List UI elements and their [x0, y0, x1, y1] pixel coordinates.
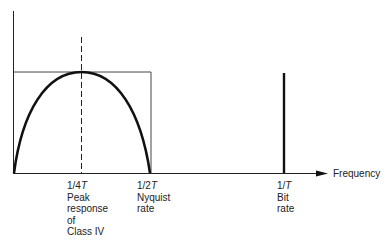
- marker-half-value: 1/2T: [137, 180, 170, 192]
- marker-full-value: 1/T: [277, 180, 294, 192]
- marker-quarter-label: 1/4T Peak response of Class IV: [67, 180, 108, 238]
- marker-full-label: 1/T Bit rate: [277, 180, 294, 215]
- marker-quarter-desc-3: of: [67, 215, 108, 227]
- x-axis-arrow-icon: [316, 171, 328, 177]
- marker-quarter-desc-4: Class IV: [67, 226, 108, 238]
- marker-quarter-value: 1/4T: [67, 180, 108, 192]
- marker-full-desc-1: Bit: [277, 192, 294, 204]
- x-axis-label: Frequency: [333, 168, 380, 180]
- spectrum-diagram: [0, 0, 386, 243]
- marker-quarter-desc-2: response: [67, 203, 108, 215]
- marker-half-desc-2: rate: [137, 203, 170, 215]
- marker-half-desc-1: Nyquist: [137, 192, 170, 204]
- ideal-nyquist-rectangle: [14, 72, 152, 174]
- marker-half-label: 1/2T Nyquist rate: [137, 180, 170, 215]
- marker-quarter-desc-1: Peak: [67, 192, 108, 204]
- marker-full-desc-2: rate: [277, 203, 294, 215]
